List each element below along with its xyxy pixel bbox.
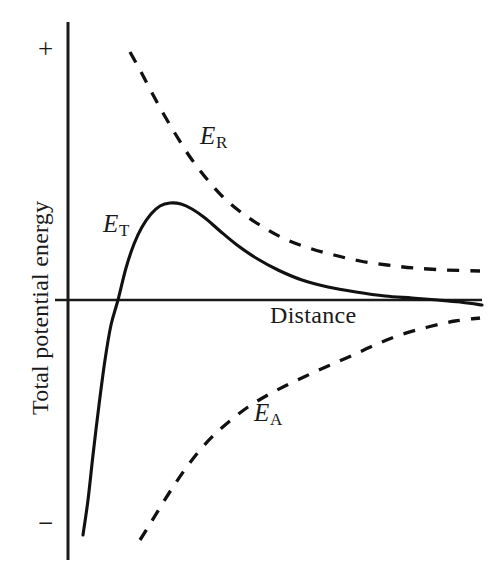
- y-axis-tick-negative: −: [38, 510, 53, 537]
- series-label-ET-subscript: T: [119, 221, 129, 240]
- x-axis-label: Distance: [270, 303, 356, 327]
- series-label-EA-subscript: A: [270, 410, 282, 429]
- series-label-ET-base: E: [103, 210, 118, 237]
- series-label-total-energy: ET: [103, 211, 129, 239]
- curve-repulsive-energy: [130, 52, 480, 271]
- series-label-ER-subscript: R: [216, 133, 227, 152]
- series-label-EA-base: E: [254, 399, 269, 426]
- series-label-repulsive-energy: ER: [200, 123, 227, 151]
- curve-total-energy: [83, 203, 482, 535]
- series-label-ER-base: E: [200, 122, 215, 149]
- plot-canvas: [0, 0, 500, 573]
- curve-attractive-energy: [140, 318, 480, 540]
- dlvo-potential-energy-figure: + − Total potential energy Distance ET E…: [0, 0, 500, 573]
- series-label-attractive-energy: EA: [254, 400, 282, 428]
- y-axis-label: Total potential energy: [28, 175, 52, 415]
- y-axis-tick-positive: +: [38, 36, 53, 63]
